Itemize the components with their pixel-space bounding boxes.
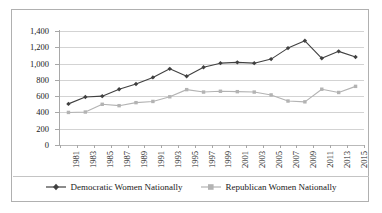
data-point-marker [134, 82, 138, 86]
data-point-marker [269, 93, 272, 96]
series-line [68, 41, 355, 104]
chart-legend: Democratic Women Nationally Republican W… [12, 182, 370, 192]
data-point-marker [337, 91, 340, 94]
data-point-marker [353, 55, 357, 59]
series-democratic [66, 39, 358, 107]
legend-key-democratic-icon [45, 182, 67, 192]
data-point-marker [235, 60, 239, 64]
legend-item-republican[interactable]: Republican Women Nationally [200, 182, 336, 192]
data-point-marker [219, 90, 222, 93]
data-point-marker [117, 87, 121, 91]
data-point-marker [184, 74, 188, 78]
data-point-marker [286, 99, 289, 102]
data-point-marker [253, 90, 256, 93]
series-plot [12, 10, 370, 203]
data-point-marker [336, 49, 340, 53]
data-point-marker [252, 61, 256, 65]
series-line [68, 86, 355, 112]
legend-divider [13, 176, 369, 177]
data-point-marker [185, 88, 188, 91]
data-point-marker [84, 110, 87, 113]
data-point-marker [117, 104, 120, 107]
data-point-marker [151, 75, 155, 79]
data-point-marker [101, 103, 104, 106]
chart-container: 02004006008001,0001,2001,400 19811983198… [11, 9, 369, 202]
series-republican [67, 85, 358, 114]
data-point-marker [320, 88, 323, 91]
data-point-marker [134, 101, 137, 104]
data-point-marker [202, 90, 205, 93]
data-point-marker [201, 65, 205, 69]
data-point-marker [354, 85, 357, 88]
data-point-marker [100, 94, 104, 98]
data-point-marker [83, 95, 87, 99]
data-point-marker [66, 102, 70, 106]
legend-key-republican-icon [200, 182, 222, 192]
data-point-marker [218, 61, 222, 65]
legend-label-democratic: Democratic Women Nationally [70, 183, 182, 192]
legend-item-democratic[interactable]: Democratic Women Nationally [45, 182, 182, 192]
data-point-marker [168, 95, 171, 98]
data-point-marker [67, 111, 70, 114]
data-point-marker [236, 90, 239, 93]
data-point-marker [303, 100, 306, 103]
legend-label-republican: Republican Women Nationally [225, 183, 336, 192]
data-point-marker [151, 100, 154, 103]
data-point-marker [168, 67, 172, 71]
